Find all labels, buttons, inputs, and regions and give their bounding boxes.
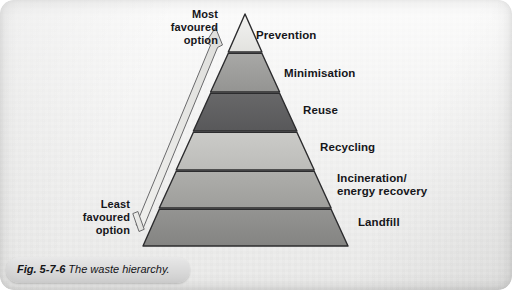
tier-label-minimisation: Minimisation	[284, 67, 355, 80]
tier-label-incineration-line1: Incineration/	[337, 172, 407, 184]
arrow-up-label-line1: Most	[158, 8, 218, 21]
tier-label-reuse: Reuse	[303, 104, 338, 117]
arrow-down-label: Least favoured option	[70, 198, 130, 237]
pyramid-tier-minimisation	[211, 53, 280, 92]
pyramid-tier-landfill	[143, 209, 348, 246]
arrow-down-label-line2: favoured	[70, 211, 130, 224]
pyramid-tier-reuse	[193, 93, 297, 131]
pyramid	[143, 14, 348, 246]
tier-label-recycling: Recycling	[320, 141, 375, 154]
pyramid-tier-recycling	[176, 132, 314, 170]
arrow-down-label-line1: Least	[70, 198, 130, 211]
figure-caption: Fig. 5-7-6 The waste hierarchy.	[17, 263, 170, 275]
arrow-up-label-line2: favoured	[158, 21, 218, 34]
figure-container: Most favoured option Least favoured opti…	[0, 0, 512, 290]
figure-caption-text: The waste hierarchy.	[68, 263, 169, 275]
diagram-stage: Most favoured option Least favoured opti…	[0, 0, 512, 290]
arrow-up-label: Most favoured option	[158, 8, 218, 47]
tier-label-incineration-line2: energy recovery	[337, 185, 427, 197]
tier-label-landfill: Landfill	[358, 216, 400, 229]
figure-number: Fig. 5-7-6	[17, 263, 65, 275]
pyramid-tier-incineration	[159, 171, 331, 208]
arrow-up-label-line3: option	[158, 34, 218, 47]
tier-label-incineration: Incineration/ energy recovery	[337, 172, 447, 198]
tier-label-prevention: Prevention	[256, 29, 316, 42]
waste-hierarchy-diagram	[0, 0, 512, 290]
arrow-down-label-line3: option	[70, 224, 130, 237]
